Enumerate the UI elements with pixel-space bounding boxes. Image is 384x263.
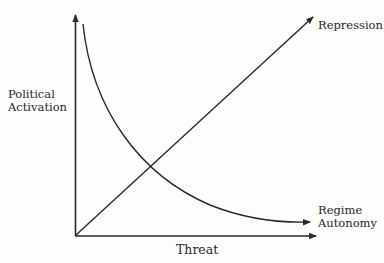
- repression-label: Repression: [318, 19, 383, 32]
- regime-autonomy-curve: [83, 24, 310, 222]
- diagram-canvas: Political Activation Threat Repression R…: [0, 0, 384, 263]
- regime-autonomy-label: Regime Autonomy: [318, 204, 377, 230]
- x-axis-label: Threat: [176, 243, 218, 256]
- repression-line: [76, 17, 313, 235]
- y-axis-label: Political Activation: [8, 88, 67, 114]
- regime-autonomy-label-line2: Autonomy: [318, 217, 377, 230]
- y-axis-label-line2: Activation: [8, 101, 67, 114]
